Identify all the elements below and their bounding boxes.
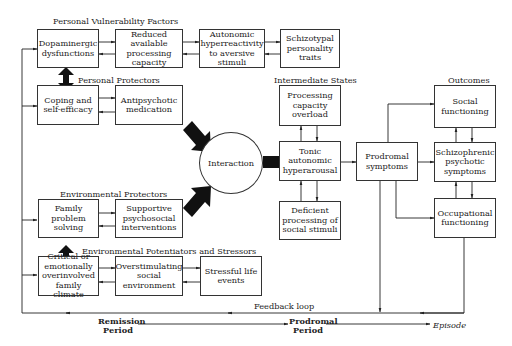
timeline-remission: Remission Period [98,317,138,335]
timeline-prodromal: Prodromal Period [289,317,327,335]
section-environmental-protectors: Environmental Protectors [60,189,167,199]
feedback-loop-label: Feedback loop [254,301,314,311]
box-family-problem-solving: Family problem solving [38,199,99,238]
box-processing-overload: Processing capacity overload [279,85,341,126]
box-prodromal-symptoms: Prodromal symptoms [356,142,418,181]
section-personal-protectors: Personal Protectors [78,75,160,85]
box-tonic-hyperarousal: Tonic autonomic hyperarousal [279,141,341,181]
section-environmental-stressors: Environmental Potentiators and Stressors [82,246,256,256]
box-coping: Coping and self-efficacy [37,85,99,125]
box-stressful-life-events: Stressful life events [200,256,262,296]
box-schizophrenic-symptoms: Schizophrenic psychotic symptoms [434,142,496,182]
box-schizotypal: Schizotypal personality traits [280,29,340,68]
box-antipsychotic: Antipsychotic medication [115,85,183,125]
section-personal-vulnerability: Personal Vulnerability Factors [53,16,178,26]
box-overstimulating: Overstimulating social environment [115,256,183,296]
box-deficient-processing: Deficient processing of social stimuli [279,201,341,240]
box-occupational-functioning: Occupational functioning [434,198,496,238]
box-supportive-interventions: Supportive psychosocial interventions [115,199,183,238]
section-outcomes: Outcomes [448,75,490,85]
section-intermediate-states: Intermediate States [274,75,357,85]
box-critical-family-climate: Critical or emotionally overinvolved fam… [38,256,99,296]
box-autonomic-hyperreactivity: Autonomic hyperreactivity to aversive st… [199,29,265,68]
timeline-episode: Episode [433,320,466,330]
box-reduced-capacity: Reduced available processing capacity [115,29,183,68]
box-dopaminergic: Dopaminergic dysfunctions [37,29,99,68]
box-social-functioning: Social functioning [434,85,496,128]
interaction-circle: Interaction [199,132,263,194]
